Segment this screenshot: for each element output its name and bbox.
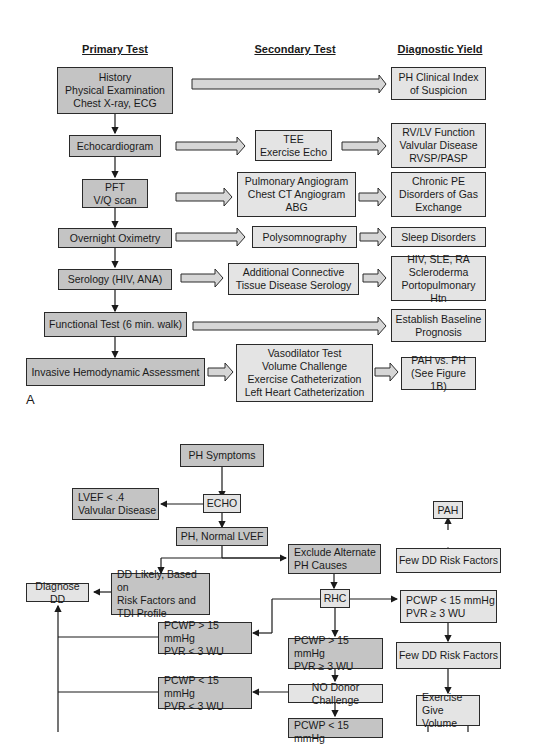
secondary-tee: TEE Exercise Echo <box>255 130 332 161</box>
primary-pft: PFT V/Q scan <box>82 179 148 208</box>
yield-rv-lv-function: RV/LV Function Valvular Disease RVSP/PAS… <box>391 123 486 168</box>
primary-invasive-hemodynamic: Invasive Hemodynamic Assessment <box>26 358 205 386</box>
node-pcwp-gt-pvr-lt: PCWP > 15 mmHg PVR < 3 WU <box>158 622 252 654</box>
node-ph-normal-lvef: PH, Normal LVEF <box>176 527 268 546</box>
node-exercise-volume: Exercise Give Volume <box>416 695 480 726</box>
secondary-vasodilator-test: Vasodilator Test Volume Challenge Exerci… <box>236 344 373 402</box>
node-pcwp-lt-bottom: PCWP < 15 mmHg <box>288 718 383 738</box>
secondary-pulmonary-angiogram: Pulmonary Angiogram Chest CT Angiogram A… <box>237 172 356 217</box>
node-exclude-alternate: Exclude Alternate PH Causes <box>288 544 381 574</box>
node-dd-likely: DD Likely, Based on Risk Factors and TDI… <box>111 573 210 615</box>
secondary-connective-tissue: Additional Connective Tissue Disease Ser… <box>228 263 359 295</box>
node-lvef: LVEF < .4 Valvular Disease <box>72 488 159 520</box>
yield-chronic-pe: Chronic PE Disorders of Gas Exchange <box>391 172 486 217</box>
yield-establish-baseline: Establish Baseline Prognosis <box>391 309 486 342</box>
node-no-donor-challenge: NO Donor Challenge <box>288 684 383 703</box>
node-echo: ECHO <box>203 494 241 513</box>
yield-hiv-sle-ra: HIV, SLE, RA Scleroderma Portopulmonary … <box>391 256 486 301</box>
primary-echocardiogram: Echocardiogram <box>69 135 161 157</box>
node-pah: PAH <box>433 501 463 519</box>
node-pcwp-lt-pvr-lt: PCWP < 15 mmHg PVR < 3 WU <box>158 677 252 709</box>
node-ph-symptoms: PH Symptoms <box>180 444 264 467</box>
header-primary-test: Primary Test <box>60 43 170 55</box>
primary-overnight-oximetry: Overnight Oximetry <box>58 228 172 248</box>
figure-label-a: A <box>26 392 35 407</box>
yield-sleep-disorders: Sleep Disorders <box>391 227 486 247</box>
node-few-dd-risk-1: Few DD Risk Factors <box>396 548 501 573</box>
node-pcwp-lt-pvr-ge: PCWP < 15 mmHg PVR ≥ 3 WU <box>400 590 497 623</box>
header-diagnostic-yield: Diagnostic Yield <box>385 43 495 55</box>
node-diagnose-dd: Diagnose DD <box>26 583 89 602</box>
node-few-dd-risk-2: Few DD Risk Factors <box>396 642 501 669</box>
yield-pah-vs-ph: PAH vs. PH (See Figure 1B) <box>401 357 476 390</box>
header-secondary-test: Secondary Test <box>230 43 360 55</box>
node-rhc: RHC <box>320 589 350 608</box>
secondary-polysomnography: Polysomnography <box>252 226 357 248</box>
node-pcwp-gt-pvr-ge: PCWP > 15 mmHg PVR ≥ 3 WU <box>288 638 383 669</box>
primary-serology: Serology (HIV, ANA) <box>58 269 172 290</box>
primary-functional-test: Functional Test (6 min. walk) <box>44 312 187 337</box>
primary-history: History Physical Examination Chest X-ray… <box>57 67 173 114</box>
yield-clinical-index: PH Clinical Index of Suspicion <box>391 67 486 100</box>
block-arrow <box>192 75 386 93</box>
